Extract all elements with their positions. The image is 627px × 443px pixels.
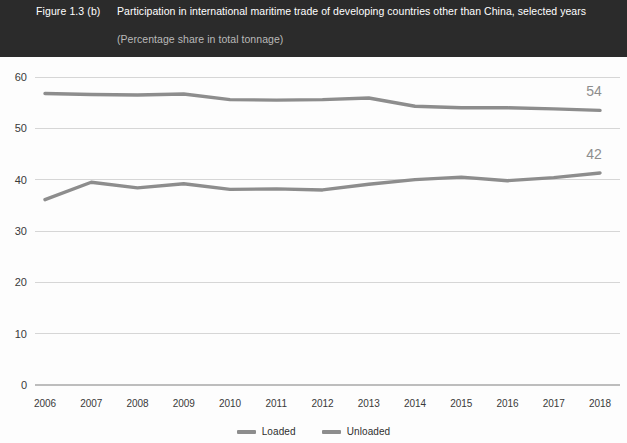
x-axis-tick-label: 2018 — [589, 398, 612, 409]
x-axis-tick-label: 2010 — [219, 398, 242, 409]
y-axis-tick-label: 10 — [15, 328, 27, 340]
y-axis-tick-label: 30 — [15, 225, 27, 237]
y-axis-tick-label: 60 — [15, 71, 27, 83]
y-axis-tick-label: 0 — [21, 379, 27, 391]
x-axis-tick-label: 2011 — [265, 398, 287, 409]
data-series-group — [45, 93, 600, 199]
x-axis-tick-label: 2009 — [173, 398, 196, 409]
legend-item-unloaded[interactable]: Unloaded — [322, 426, 391, 437]
x-axis-tick-label: 2015 — [450, 398, 473, 409]
series-line-loaded — [45, 93, 600, 110]
y-axis-tick-label: 40 — [15, 174, 27, 186]
figure-header-bar: Figure 1.3 (b) Participation in internat… — [0, 0, 627, 57]
legend-swatch-loaded — [237, 430, 256, 434]
chart-legend: Loaded Unloaded — [0, 420, 627, 443]
line-chart: 0102030405060 20062007200820092010201120… — [0, 57, 627, 443]
y-axis-tick-label: 50 — [15, 122, 27, 134]
chart-plot-area: 0102030405060 20062007200820092010201120… — [0, 57, 627, 443]
gridlines-group — [35, 77, 620, 385]
x-axis-tick-label: 2016 — [496, 398, 519, 409]
series-line-unloaded — [45, 173, 600, 200]
x-axis-tick-label: 2017 — [543, 398, 566, 409]
x-axis-tick-label: 2012 — [311, 398, 334, 409]
legend-label-unloaded: Unloaded — [347, 426, 391, 437]
x-axis-tick-label: 2008 — [126, 398, 149, 409]
x-axis-tick-label: 2007 — [80, 398, 103, 409]
figure-title: Participation in international maritime … — [117, 5, 617, 19]
legend-label-loaded: Loaded — [262, 426, 296, 437]
figure-number: Figure 1.3 (b) — [36, 5, 100, 17]
y-axis-tick-label: 20 — [15, 276, 27, 288]
y-axis-tick-labels: 0102030405060 — [15, 71, 27, 391]
figure-container: Figure 1.3 (b) Participation in internat… — [0, 0, 627, 443]
data-label-unloaded: 42 — [586, 146, 602, 162]
x-axis-tick-label: 2013 — [358, 398, 381, 409]
legend-swatch-unloaded — [322, 430, 341, 434]
legend-item-loaded[interactable]: Loaded — [237, 426, 296, 437]
x-axis-tick-labels: 2006200720082009201020112012201320142015… — [34, 398, 612, 409]
x-axis-tick-label: 2006 — [34, 398, 57, 409]
figure-subtitle: (Percentage share in total tonnage) — [117, 33, 283, 45]
data-label-loaded: 54 — [586, 83, 602, 99]
x-axis-tick-label: 2014 — [404, 398, 427, 409]
data-point-annotations: 5442 — [586, 83, 602, 162]
